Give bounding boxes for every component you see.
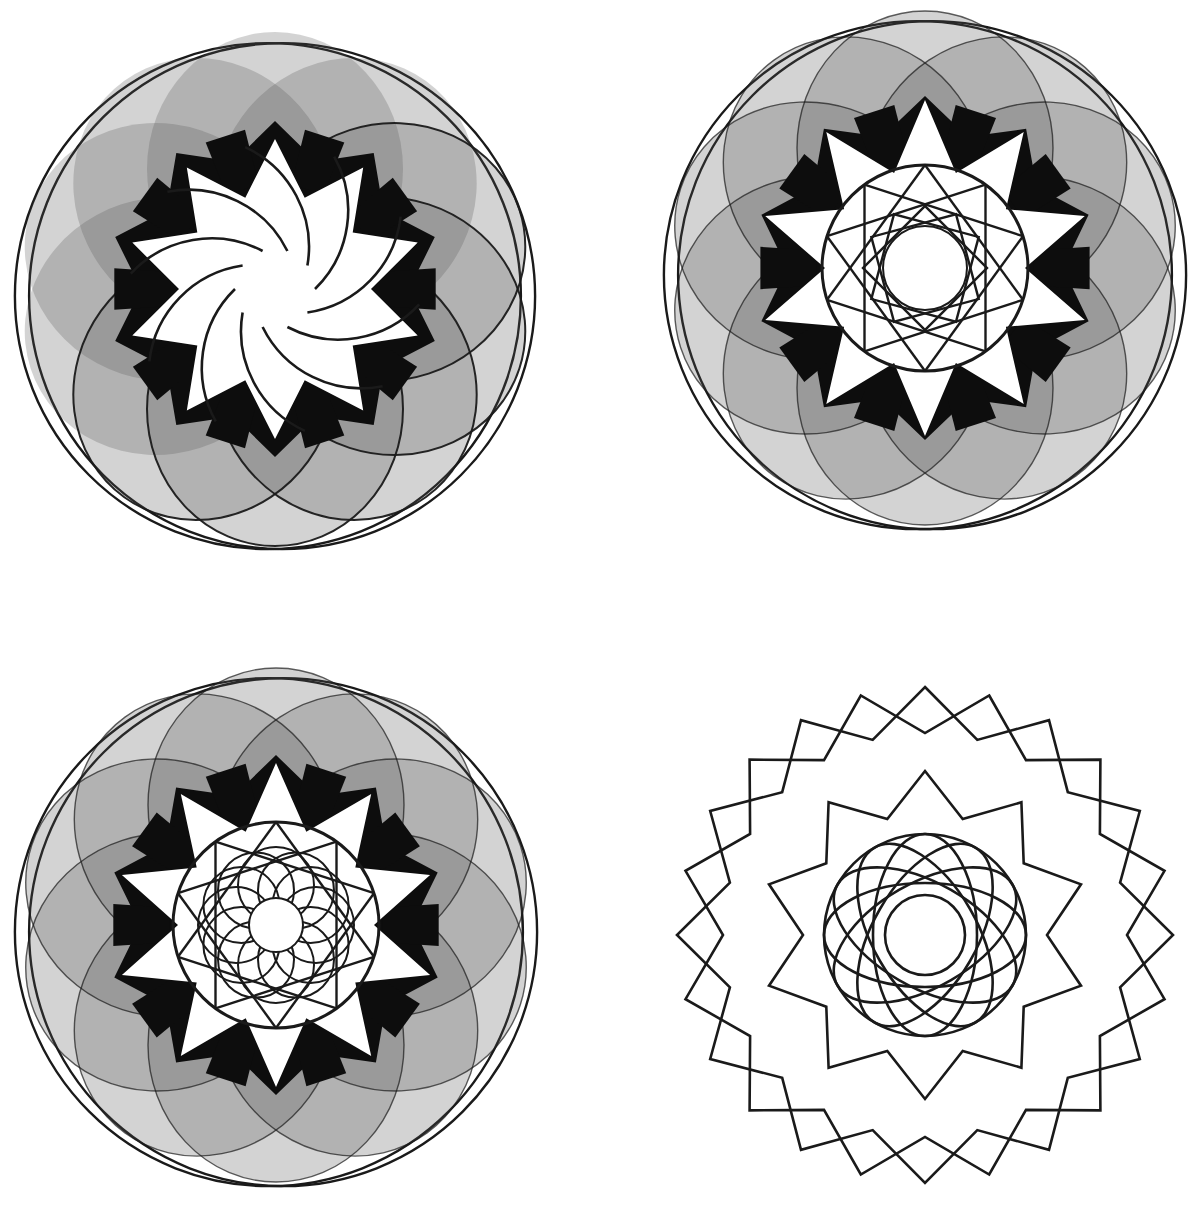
rosette-figure-top-left	[0, 12, 552, 566]
outline-rosette	[677, 687, 1173, 1183]
rosette-figure-top-right	[647, 0, 1194, 546]
center-hole	[249, 898, 303, 952]
rosette-figure-bottom-left	[0, 647, 554, 1203]
rosette-svg	[0, 647, 554, 1203]
center-hole	[883, 226, 967, 310]
figure-caption	[0, 1206, 1194, 1223]
rosette-figure-bottom-right	[657, 667, 1193, 1203]
rosette-svg	[657, 667, 1193, 1203]
rosette-svg	[0, 12, 552, 566]
rosette-svg	[647, 0, 1194, 546]
